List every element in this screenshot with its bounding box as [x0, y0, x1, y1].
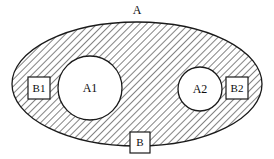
element-label-b2: B2 [231, 82, 244, 94]
outer-set-label-a: A [133, 3, 142, 17]
set-diagram-canvas: A A1 A2 B1 B2 B [0, 0, 274, 159]
inner-set-label-a2: A2 [193, 82, 208, 96]
element-label-b: B [136, 136, 143, 148]
set-diagram-container: A A1 A2 B1 B2 B [0, 0, 274, 159]
element-label-b1: B1 [33, 82, 46, 94]
inner-set-label-a1: A1 [83, 81, 98, 95]
